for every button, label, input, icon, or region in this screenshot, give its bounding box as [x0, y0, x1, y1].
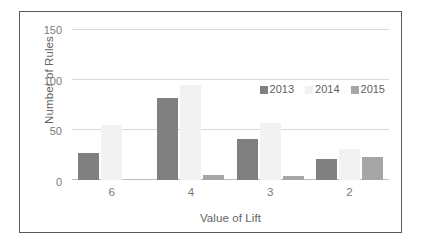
bar-2013-2 — [316, 159, 337, 180]
legend-item-2014[interactable]: 2014 — [305, 84, 339, 95]
bar-2015-3 — [283, 176, 304, 180]
legend-label: 2013 — [270, 84, 294, 95]
bar-group — [310, 30, 389, 180]
bar-2014-2 — [339, 149, 360, 180]
bar-2013-3 — [237, 139, 258, 180]
bar-2013-4 — [157, 98, 178, 180]
bar-groups — [72, 30, 389, 180]
legend-label: 2014 — [315, 84, 339, 95]
legend-swatch-icon — [305, 86, 313, 94]
legend-swatch-icon — [351, 86, 359, 94]
legend-item-2013[interactable]: 2013 — [260, 84, 294, 95]
y-tick-label: 100 — [32, 75, 62, 87]
bar-2013-6 — [78, 153, 99, 180]
legend-swatch-icon — [260, 86, 268, 94]
bar-2014-3 — [260, 123, 281, 180]
plot-area — [72, 30, 389, 180]
x-tick-label: 6 — [72, 186, 151, 202]
chart-figure: Number of Rules 050100150 6432 Value of … — [19, 11, 402, 233]
bar-group — [151, 30, 230, 180]
bar-2015-2 — [362, 157, 383, 180]
x-axis-title: Value of Lift — [72, 212, 389, 224]
x-tick-label: 3 — [231, 186, 310, 202]
bar-2015-4 — [203, 175, 224, 180]
y-tick-label: 0 — [32, 176, 62, 188]
x-tick-label: 2 — [310, 186, 389, 202]
chart-legend: 201320142015 — [260, 84, 385, 95]
bar-group — [231, 30, 310, 180]
bar-group — [72, 30, 151, 180]
y-axis-tick-labels: 050100150 — [32, 12, 62, 232]
x-tick-label: 4 — [151, 186, 230, 202]
y-tick-label: 150 — [32, 24, 62, 36]
bar-2014-4 — [180, 85, 201, 180]
x-axis-tick-labels: 6432 — [72, 186, 389, 202]
bar-2014-6 — [101, 125, 122, 180]
legend-label: 2015 — [361, 84, 385, 95]
legend-item-2015[interactable]: 2015 — [351, 84, 385, 95]
y-tick-label: 50 — [32, 125, 62, 137]
